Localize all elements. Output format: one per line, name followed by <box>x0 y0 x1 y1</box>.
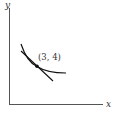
point-label: (3, 4) <box>38 52 61 62</box>
tangent-point <box>35 64 39 68</box>
y-axis-label: y <box>4 0 11 10</box>
diagram-canvas: y x (3, 4) <box>0 0 120 122</box>
x-axis-label: x <box>106 99 111 109</box>
